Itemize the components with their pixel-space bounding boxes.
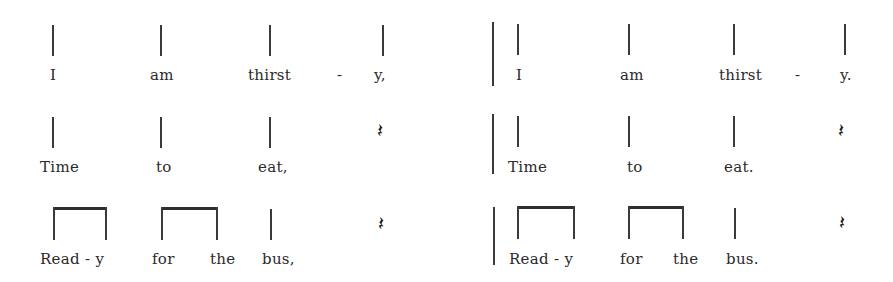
quarter-rest-icon: 𝄽 [377, 120, 383, 140]
quarter-note-stem [734, 208, 736, 239]
quarter-note-stem [517, 24, 519, 55]
barline [493, 207, 495, 265]
quarter-note-stem [733, 116, 735, 147]
lyric-word: the [673, 250, 698, 268]
eighth-note-beam [161, 207, 217, 210]
lyric-word: to [627, 158, 643, 176]
quarter-note-stem [844, 24, 846, 55]
eighth-note-stem [573, 206, 575, 239]
quarter-rest-icon: 𝄽 [839, 212, 845, 232]
quarter-note-stem [269, 25, 271, 56]
quarter-note-stem [733, 24, 735, 55]
eighth-note-stem [628, 206, 630, 239]
lyric-word: I [516, 66, 522, 84]
lyric-hyphen: - [337, 66, 342, 84]
eighth-note-stem [53, 207, 55, 240]
eighth-note-beam [628, 206, 684, 209]
lyric-word: Read - y [40, 250, 104, 268]
eighth-note-stem [682, 206, 684, 239]
lyric-word: am [620, 66, 644, 84]
quarter-note-stem [52, 25, 54, 56]
lyric-word: Time [508, 158, 547, 176]
lyric-word: y. [840, 66, 852, 84]
lyric-word: bus. [726, 250, 759, 268]
eighth-note-beam [53, 207, 107, 210]
eighth-note-stem [105, 207, 107, 240]
barline [492, 114, 494, 174]
eighth-note-stem [216, 207, 218, 240]
lyric-word: for [620, 250, 643, 268]
lyric-word: bus, [262, 250, 295, 268]
lyric-word: to [156, 158, 172, 176]
quarter-note-stem [270, 209, 272, 240]
quarter-note-stem [628, 116, 630, 147]
lyric-word: for [152, 250, 175, 268]
eighth-note-beam [517, 206, 575, 209]
quarter-note-stem [160, 25, 162, 56]
quarter-note-stem [382, 25, 384, 56]
eighth-note-stem [517, 206, 519, 239]
lyric-word: thirst [719, 66, 762, 84]
lyric-word: am [150, 66, 174, 84]
quarter-note-stem [628, 24, 630, 55]
quarter-rest-icon: 𝄽 [838, 120, 844, 140]
lyric-word: Time [40, 158, 79, 176]
lyric-word: eat. [724, 158, 754, 176]
lyric-word: thirst [248, 66, 291, 84]
lyric-word: the [210, 250, 235, 268]
quarter-rest-icon: 𝄽 [378, 213, 384, 233]
lyric-word: Read - y [509, 250, 573, 268]
quarter-note-stem [269, 117, 271, 148]
lyric-word: I [50, 66, 56, 84]
quarter-note-stem [52, 117, 54, 148]
lyric-word: y, [374, 66, 386, 84]
quarter-note-stem [517, 116, 519, 147]
lyric-hyphen: - [795, 66, 800, 84]
lyric-word: eat, [258, 158, 288, 176]
quarter-note-stem [160, 117, 162, 148]
barline [492, 22, 494, 86]
eighth-note-stem [161, 207, 163, 240]
